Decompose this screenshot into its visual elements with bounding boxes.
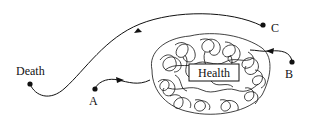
label-a: A: [89, 94, 98, 108]
diagram-svg: Health Death A B C: [0, 0, 313, 129]
health-label: Health: [198, 66, 230, 80]
point-b: [289, 59, 294, 64]
label-b: B: [285, 67, 293, 81]
health-box: Health: [189, 64, 239, 81]
path-b-to-health: [250, 48, 292, 61]
point-c: [260, 22, 265, 27]
death-point: [27, 81, 32, 86]
death-label: Death: [16, 64, 45, 78]
health-diagram: Health Death A B C: [0, 0, 313, 129]
point-a: [92, 86, 97, 91]
path-c-to-death: [30, 14, 262, 96]
path-a-to-health: [95, 77, 150, 88]
label-c: C: [271, 21, 279, 35]
